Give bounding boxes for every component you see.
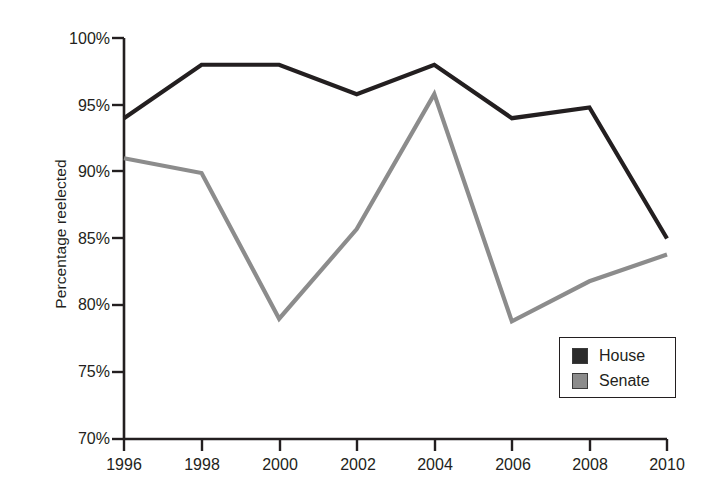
line-chart: Percentage reelected 100% 95% 90% 85% 80… — [0, 0, 712, 502]
legend-item-senate: Senate — [572, 371, 650, 391]
legend-item-house: House — [572, 346, 645, 366]
legend-label: Senate — [599, 373, 650, 389]
x-axis-ticks — [124, 439, 667, 451]
legend-swatch-icon — [572, 373, 588, 389]
legend: House Senate — [559, 337, 676, 398]
legend-label: House — [599, 348, 645, 364]
plot-area — [0, 0, 712, 502]
series-line-senate — [124, 94, 667, 321]
series-line-house — [124, 65, 667, 239]
y-axis-ticks — [112, 38, 124, 439]
legend-swatch-icon — [572, 348, 588, 364]
